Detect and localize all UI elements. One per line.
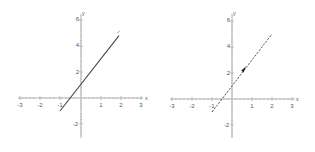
x-axis-label: x xyxy=(145,95,148,101)
y-tick-label: -2 xyxy=(73,121,79,127)
y-axis-label: y xyxy=(82,10,85,16)
x-tick-label: 1 xyxy=(99,102,103,108)
x-tick-label: -1 xyxy=(209,103,215,109)
x-axis-label: x xyxy=(296,96,299,102)
right-graph: -3 -2 -1 1 2 3 x 6 4 2 -2 y xyxy=(155,0,315,152)
right-graph-panel: -3 -2 -1 1 2 3 x 6 4 2 -2 y xyxy=(155,0,315,152)
y-tick-label: -2 xyxy=(224,122,230,128)
dashed-line-series xyxy=(212,34,272,112)
x-tick-label: 3 xyxy=(139,102,143,108)
x-tick-label: 2 xyxy=(270,103,274,109)
y-tick-label: 4 xyxy=(76,42,80,48)
y-tick-label: 6 xyxy=(76,16,80,22)
solid-line-series xyxy=(60,36,119,111)
x-tick-label: 2 xyxy=(119,102,123,108)
x-tick-label: -2 xyxy=(189,103,195,109)
x-tick-label: -3 xyxy=(169,103,175,109)
left-graph-panel: -3 -2 -1 1 2 3 x 6 4 2 -2 y xyxy=(0,0,160,152)
left-graph: -3 -2 -1 1 2 3 x 6 4 2 -2 y xyxy=(0,0,160,152)
line-end-mark xyxy=(117,31,120,33)
y-axis-label: y xyxy=(233,10,236,16)
x-tick-label: 1 xyxy=(250,103,254,109)
x-tick-label: -3 xyxy=(17,102,23,108)
y-tick-label: 6 xyxy=(227,17,231,23)
x-tick-label: 3 xyxy=(290,103,294,109)
x-tick-label: -2 xyxy=(37,102,43,108)
y-tick-label: 4 xyxy=(227,43,231,49)
